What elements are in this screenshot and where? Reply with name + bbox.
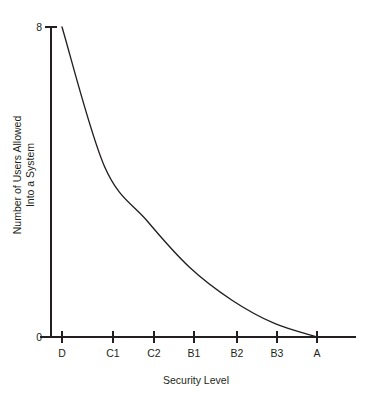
y-axis-title: Number of Users Allowed Into a System (11, 116, 36, 235)
y-axis-title-line2: Into a System (24, 143, 36, 207)
x-tick-label-c1: C1 (106, 347, 120, 359)
y-axis-title-line1: Number of Users Allowed (11, 116, 23, 235)
x-tick-label-b1: B1 (188, 347, 201, 359)
axes-group (40, 27, 356, 337)
x-tick-label-b3: B3 (271, 347, 284, 359)
decay-curve (62, 27, 317, 337)
y-tick-label-8: 8 (36, 21, 42, 33)
x-tick-label-a: A (313, 347, 320, 359)
x-tick-label-b2: B2 (231, 347, 244, 359)
chart-canvas: 8 0 D C1 C2 B1 B2 B3 A Security Level Nu… (0, 0, 379, 402)
y-tick-label-0: 0 (36, 331, 42, 343)
x-tick-label-d: D (58, 347, 66, 359)
x-tick-label-c2: C2 (147, 347, 161, 359)
x-axis-title: Security Level (163, 374, 229, 386)
chart-figure: 8 0 D C1 C2 B1 B2 B3 A Security Level Nu… (0, 0, 379, 402)
